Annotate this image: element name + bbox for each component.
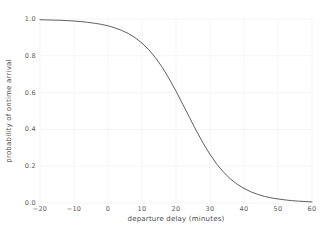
y-axis-label: probability of ontime arrival xyxy=(5,59,13,162)
x-axis-label: departure delay (minutes) xyxy=(40,215,312,223)
series-line-probability-of-ontime-arrival xyxy=(40,19,312,203)
plot-area xyxy=(40,19,312,203)
chart-figure: 0.00.20.40.60.81.0 −20−100102030405060 d… xyxy=(0,0,324,239)
curve-path xyxy=(40,20,312,202)
y-tick-label: 0.2 xyxy=(0,162,36,170)
x-tick-label: 60 xyxy=(292,205,324,213)
y-tick-label: 1.0 xyxy=(0,15,36,23)
